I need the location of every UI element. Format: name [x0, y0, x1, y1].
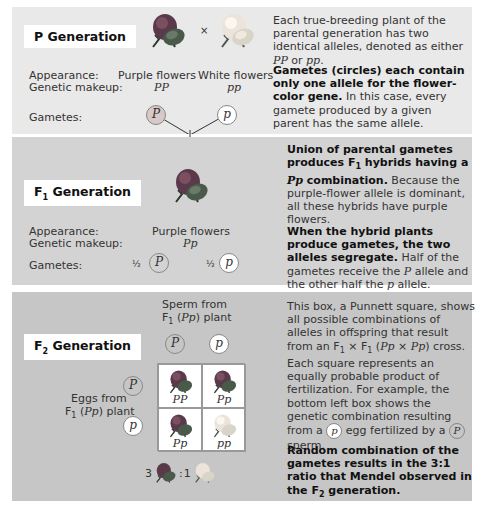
p-description-2: Gametes (circles) each contain only one … [273, 64, 471, 130]
f1-description-2: When the hybrid plants produce gametes, … [287, 225, 477, 291]
white-flower-icon [191, 460, 217, 486]
dominant-gamete-inline: P [449, 423, 465, 439]
punnett-genotype: Pp [203, 393, 245, 406]
punnett-genotype: PP [159, 393, 201, 406]
f1-gamete-dominant: P [149, 253, 169, 273]
punnett-square: PP Pp Pp pp [157, 363, 245, 451]
ratio-separator: : [179, 467, 183, 480]
sperm-label: Sperm from F1 (Pp) plant [162, 298, 232, 328]
sperm-gamete-recessive: p [209, 334, 229, 354]
f1-genotype: Pp [183, 237, 197, 250]
p-generation-panel: P Generation × Appearance: Genetic makeu… [12, 7, 472, 134]
purple-flower-icon [168, 164, 212, 208]
genetic-makeup-label: Genetic makeup: [29, 237, 123, 250]
purple-count: 3 [145, 467, 152, 480]
gamete-fraction: ½ [132, 259, 141, 269]
p-description-1: Each true-breeding plant of the parental… [273, 14, 469, 67]
ratio-display: 3 : 1 [145, 460, 217, 486]
recessive-gamete-inline: p [326, 423, 342, 439]
f1-generation-title: F1 Generation [24, 180, 141, 206]
f1-generation-panel: F1 Generation Appearance: Genetic makeup… [12, 137, 472, 285]
parent2-gamete: p [217, 105, 237, 125]
f2-description-2: Random combination of the gametes result… [287, 444, 477, 501]
white-count: 1 [184, 467, 191, 480]
f2-generation-panel: F2 Generation Sperm from F1 (Pp) plant P… [12, 292, 472, 501]
f2-generation-title: F2 Generation [24, 334, 141, 360]
purple-flower-icon [152, 460, 178, 486]
punnett-cell: Pp [158, 408, 202, 452]
punnett-genotype: pp [203, 437, 245, 450]
punnett-cell: pp [202, 408, 246, 452]
sperm-gamete-dominant: P [165, 334, 185, 354]
gametes-label: Gametes: [29, 259, 82, 272]
punnett-genotype: Pp [159, 437, 201, 450]
f1-gamete-recessive: p [219, 253, 239, 273]
punnett-cell: PP [158, 364, 202, 408]
parent1-gamete: P [146, 105, 166, 125]
f2-description-1: This box, a Punnett square, shows all po… [287, 300, 475, 452]
f1-description-1: Union of parental gametes produces F1 hy… [287, 143, 477, 226]
gamete-fraction: ½ [206, 259, 215, 269]
punnett-cell: Pp [202, 364, 246, 408]
eggs-label: Eggs from F1 (Pp) plant [65, 392, 135, 422]
